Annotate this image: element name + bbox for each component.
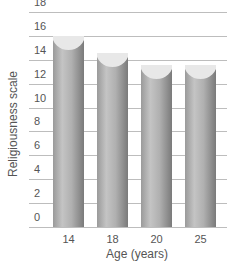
gridline — [29, 227, 227, 228]
bar-cap — [53, 36, 84, 50]
y-tick-label: 12 — [34, 68, 46, 80]
y-tick-label: 0 — [34, 211, 40, 223]
x-tick-label: 20 — [141, 233, 172, 245]
y-tick-label: 14 — [34, 44, 46, 56]
bar-chart: 024681012141618 14182025 Religiousness s… — [0, 0, 234, 264]
y-tick-label: 8 — [34, 115, 40, 127]
x-axis-label: Age (years) — [87, 247, 187, 261]
bar-age-25 — [185, 65, 216, 227]
x-tick-label: 18 — [97, 233, 128, 245]
gridline — [29, 12, 227, 13]
y-tick-label: 2 — [34, 187, 40, 199]
bar-age-18 — [97, 53, 128, 227]
bar-cap — [141, 65, 172, 79]
x-tick-label: 25 — [185, 233, 216, 245]
y-tick-label: 16 — [34, 20, 46, 32]
y-tick-label: 10 — [34, 92, 46, 104]
bar-age-20 — [141, 65, 172, 227]
y-tick-label: 18 — [34, 0, 46, 8]
bar-age-14 — [53, 36, 84, 227]
y-tick-label: 4 — [34, 163, 40, 175]
bar-cap — [97, 53, 128, 67]
y-axis-label: Religiousness scale — [6, 69, 20, 179]
y-tick-label: 6 — [34, 139, 40, 151]
x-tick-label: 14 — [53, 233, 84, 245]
bar-cap — [185, 65, 216, 79]
